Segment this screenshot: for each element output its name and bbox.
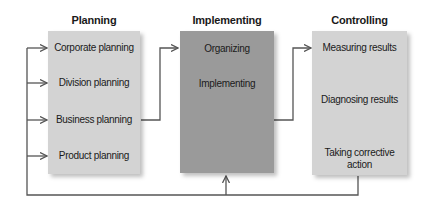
corporate-planning-step: Corporate planning xyxy=(48,42,140,54)
implementing-title: Implementing xyxy=(180,14,274,26)
measuring-results-step: Measuring results xyxy=(312,42,407,54)
diagnosing-results-step: Diagnosing results xyxy=(312,94,407,106)
implementing-step: Implementing xyxy=(180,78,274,90)
controlling-box: Measuring results Diagnosing results Tak… xyxy=(312,31,407,175)
taking-corrective-action-step-line1: Taking corrective xyxy=(312,147,407,159)
organizing-step: Organizing xyxy=(180,43,274,55)
planning-box: Corporate planning Division planning Bus… xyxy=(48,31,140,174)
implementing-box: Organizing Implementing xyxy=(180,31,274,173)
taking-corrective-action-step-line2: action xyxy=(312,159,407,171)
division-planning-step: Division planning xyxy=(48,77,140,89)
planning-title: Planning xyxy=(48,14,140,26)
controlling-title: Controlling xyxy=(312,14,407,26)
product-planning-step: Product planning xyxy=(48,150,140,162)
business-planning-step: Business planning xyxy=(48,114,140,126)
